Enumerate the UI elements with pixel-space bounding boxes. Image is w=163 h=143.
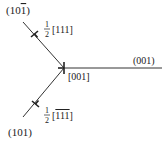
svg-text:2: 2 <box>45 116 49 125</box>
dislocation-junction-diagram: (101) 1 2 [111] 1 2 [111] (101) [001] (0… <box>0 0 163 143</box>
svg-text:1: 1 <box>45 106 49 115</box>
plane-label-upper: (101) <box>6 4 30 17</box>
burgers-vector-lower: 1 2 [111] <box>44 106 73 125</box>
plane-label-right: (001) <box>133 55 155 67</box>
burgers-vector-junction: [001] <box>68 71 90 82</box>
burgers-vector-upper: 1 2 [111] <box>44 20 73 39</box>
svg-text:2: 2 <box>45 30 49 39</box>
svg-text:[111]: [111] <box>52 24 73 35</box>
plane-label-lower: (101) <box>8 126 32 139</box>
svg-text:1: 1 <box>45 20 49 29</box>
svg-text:[111]: [111] <box>52 110 73 121</box>
